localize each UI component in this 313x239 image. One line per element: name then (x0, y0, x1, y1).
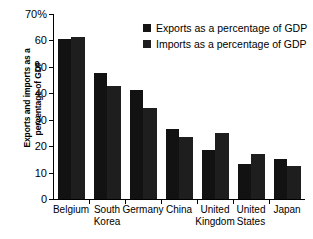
bar-exports (130, 90, 144, 198)
legend: Exports as a percentage of GDP Imports a… (143, 20, 307, 52)
y-axis-line (53, 14, 54, 200)
bar-exports (94, 73, 108, 199)
y-tick-label: 0 (41, 194, 47, 205)
legend-swatch-exports-icon (143, 24, 151, 32)
bar-imports (179, 137, 193, 198)
bar-imports (215, 133, 229, 199)
y-tick-label: 20 (35, 141, 47, 152)
y-axis-title-line-1: Exports and imports as a (22, 0, 33, 196)
x-category-label: Japan (263, 204, 311, 216)
bar-exports (58, 39, 72, 199)
y-tick-mark (49, 199, 53, 200)
legend-item-exports: Exports as a percentage of GDP (143, 20, 307, 36)
y-tick-label: 30 (35, 114, 47, 125)
legend-swatch-imports-icon (143, 40, 151, 48)
legend-label-exports: Exports as a percentage of GDP (156, 23, 307, 34)
y-tick-mark (49, 120, 53, 121)
y-tick-mark (49, 40, 53, 41)
bar-exports (166, 129, 180, 199)
y-axis-title: Exports and imports as a percentage of G… (0, 0, 26, 200)
y-tick-label: 60 (35, 35, 47, 46)
bar-imports (143, 108, 157, 198)
x-axis-line (53, 199, 305, 200)
legend-item-imports: Imports as a percentage of GDP (143, 36, 307, 52)
y-tick-mark (49, 173, 53, 174)
y-tick-label: 40 (35, 88, 47, 99)
y-tick-label: 50 (35, 61, 47, 72)
bar-exports (238, 164, 252, 198)
legend-label-imports: Imports as a percentage of GDP (156, 39, 307, 50)
y-tick-mark (49, 14, 53, 15)
y-tick-label: 10 (35, 167, 47, 178)
bar-group (94, 14, 121, 199)
bar-group (58, 14, 85, 199)
bar-chart-figure: Exports and imports as a percentage of G… (0, 0, 313, 239)
y-tick-mark (49, 146, 53, 147)
y-tick-mark (49, 93, 53, 94)
bar-imports (287, 166, 301, 199)
y-tick-label: 70% (25, 9, 47, 20)
bar-exports (274, 159, 288, 199)
bar-imports (107, 86, 121, 198)
bar-imports (71, 37, 85, 199)
y-tick-mark (49, 67, 53, 68)
bar-imports (251, 154, 265, 198)
bar-exports (202, 150, 216, 199)
